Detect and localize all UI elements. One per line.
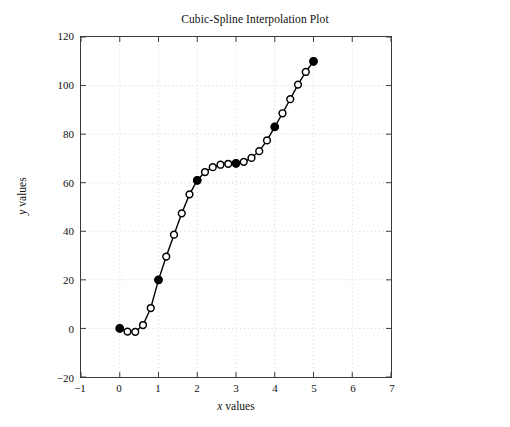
x-tick-label: 3 [216,382,256,394]
x-tick-label: 0 [99,382,139,394]
spline-marker [147,305,154,312]
spline-marker [171,231,178,238]
y-tick-label: 120 [28,30,74,42]
data-point-marker [194,177,201,184]
spline-marker [240,158,247,165]
x-tick-label: 5 [294,382,334,394]
y-tick-label: 20 [28,274,74,286]
y-tick-label: 40 [28,225,74,237]
spline-marker [209,164,216,171]
y-axis-ticks: −20020406080100120 [26,36,74,378]
spline-marker [302,69,309,76]
data-point-marker [232,160,239,167]
x-axis-ticks: −101234567 [80,382,392,402]
data-point-marker [271,123,278,130]
y-axis-label-text: values [16,177,28,209]
data-point-marker [155,276,162,283]
plot-svg [81,37,391,377]
y-tick-label: 80 [28,128,74,140]
y-tick-label: 100 [28,79,74,91]
spline-curve [120,61,314,332]
spline-marker [163,253,170,260]
x-axis-label-text: values [222,400,254,412]
x-tick-label: 7 [372,382,412,394]
spline-marker [202,169,209,176]
spline-marker [140,322,147,329]
y-axis-label: y values [16,156,28,236]
tick-marks [81,37,391,377]
plot-area [80,36,392,378]
y-axis-label-symbol: y [16,210,28,215]
spline-marker [264,137,271,144]
chart-title: Cubic-Spline Interpolation Plot [0,13,510,25]
y-tick-label: 60 [28,177,74,189]
data-point-marker [116,325,123,332]
spline-marker [225,160,232,167]
x-tick-label: 1 [138,382,178,394]
spline-marker [132,328,139,335]
x-axis-label: x values [80,400,392,412]
figure-canvas: Cubic-Spline Interpolation Plot −2002040… [0,0,510,427]
spline-marker [178,210,185,217]
spline-marker [295,81,302,88]
spline-marker [248,155,255,162]
spline-marker [186,191,193,198]
spline-marker [124,328,131,335]
x-tick-label: 4 [255,382,295,394]
data-series [116,58,317,336]
grid-lines [81,37,391,377]
spline-marker [217,161,224,168]
data-point-marker [310,58,317,65]
x-tick-label: −1 [60,382,100,394]
x-tick-label: 6 [333,382,373,394]
spline-marker [256,148,263,155]
spline-marker [287,96,294,103]
y-tick-label: 0 [28,323,74,335]
spline-marker [279,110,286,117]
x-tick-label: 2 [177,382,217,394]
